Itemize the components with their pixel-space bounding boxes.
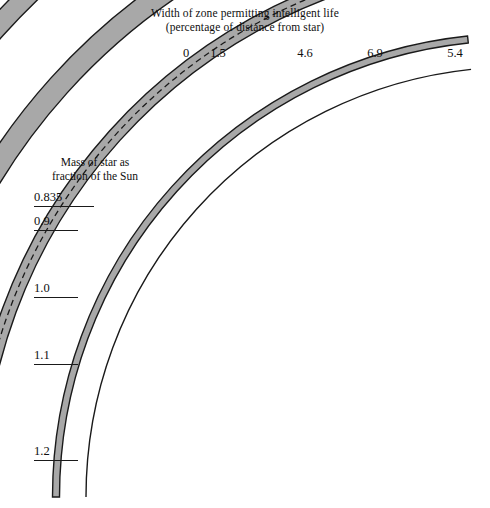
habitable-zone-band-1.1 bbox=[0, 0, 453, 497]
zone-width-label-1.5: 1.5 bbox=[210, 46, 226, 61]
habitable-zone-band-0.835 bbox=[86, 69, 471, 497]
zone-width-label-0: 0 bbox=[183, 46, 189, 61]
zone-width-label-4.6: 4.6 bbox=[297, 46, 313, 61]
zone-band-fill bbox=[53, 36, 469, 497]
star-mass-label-0.9: 0.9 bbox=[34, 214, 78, 231]
zone-band-fill bbox=[0, 0, 453, 497]
habitable-zone-figure: Width of zone permitting intelligent lif… bbox=[0, 0, 490, 508]
arc-band-group bbox=[0, 0, 490, 508]
habitable-zone-band-0.9 bbox=[53, 36, 469, 497]
star-mass-label-1.1: 1.1 bbox=[34, 348, 78, 365]
star-mass-label-1.0: 1.0 bbox=[34, 281, 78, 298]
zone-hairline-arc bbox=[86, 69, 471, 497]
star-mass-label-0.835: 0.835 bbox=[34, 190, 94, 207]
zone-width-label-6.9: 6.9 bbox=[367, 46, 383, 61]
zone-width-label-5.4: 5.4 bbox=[447, 46, 463, 61]
star-mass-label-1.2: 1.2 bbox=[34, 444, 78, 461]
